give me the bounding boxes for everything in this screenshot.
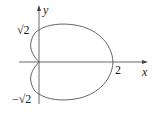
x-axis-arrow-icon (142, 60, 148, 64)
x-tick-2: 2 (115, 63, 121, 77)
y-tick-neg-sqrt2: −√2 (12, 92, 31, 106)
y-axis-label: y (42, 3, 49, 17)
x-axis-label: x (141, 65, 148, 79)
y-tick-sqrt2: √2 (17, 23, 30, 37)
polar-curve-diagram: y x 2 √2 −√2 (0, 0, 159, 114)
y-axis-arrow-icon (37, 5, 41, 11)
